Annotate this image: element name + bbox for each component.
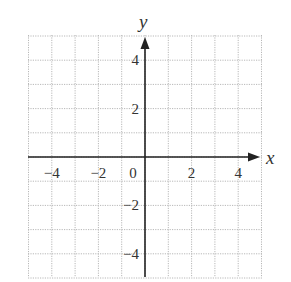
x-tick-label: 0 [129,165,137,181]
x-tick-label: 2 [188,165,196,181]
x-tick-label: 4 [234,165,242,181]
x-tick-label: −2 [90,165,106,181]
x-tick-labels: −4−2024 [44,165,243,181]
y-tick-label: −2 [123,197,139,213]
coordinate-plane: x y −4−2024 42−2−4 [0,0,291,282]
y-axis-arrow-icon [141,37,150,49]
axes [28,37,260,277]
y-axis-label: y [137,11,148,32]
x-tick-label: −4 [44,165,60,181]
y-tick-label: −4 [123,246,139,262]
y-tick-label: 2 [132,101,140,117]
x-axis-label: x [265,147,275,168]
x-axis-arrow-icon [248,153,260,162]
y-tick-label: 4 [132,52,140,68]
